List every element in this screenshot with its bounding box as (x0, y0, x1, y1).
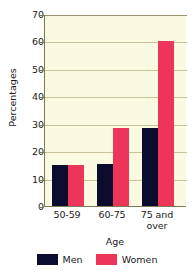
y-axis-tick-label: 20 (4, 147, 44, 156)
legend-label: Men (63, 255, 83, 265)
bar-men-1[interactable] (52, 165, 68, 206)
bar-women-3[interactable] (158, 41, 174, 206)
y-axis-tick-mark (40, 207, 44, 208)
plot-area (44, 15, 186, 207)
y-axis-tick-label: 10 (4, 175, 44, 184)
legend-swatch-women (96, 254, 117, 265)
legend-item-women[interactable]: Women (96, 254, 158, 265)
bar-women-2[interactable] (113, 128, 129, 206)
bar-men-2[interactable] (97, 164, 113, 207)
x-axis-label: Age (44, 236, 186, 247)
y-axis-tick-label: 30 (4, 120, 44, 129)
legend-swatch-men (37, 254, 58, 265)
legend-label: Women (122, 255, 158, 265)
bar-group (142, 14, 174, 206)
y-axis-tick-label: 70 (4, 10, 44, 19)
bar-men-3[interactable] (142, 128, 158, 206)
chart-legend: MenWomen (0, 254, 194, 265)
y-axis-tick-label: 50 (4, 65, 44, 74)
caption-fragment (0, 272, 194, 279)
x-axis-tick-label-line: over (127, 221, 187, 232)
y-axis-tick-label: 40 (4, 92, 44, 101)
x-axis-tick-label: 75 andover (127, 210, 187, 231)
y-axis-tick-label: 60 (4, 37, 44, 46)
bar-group (97, 14, 129, 206)
bar-group (52, 14, 84, 206)
bar-women-1[interactable] (68, 165, 84, 206)
legend-item-men[interactable]: Men (37, 254, 83, 265)
bar-chart-figure: Percentages 706050403020100 50-5960-7575… (0, 0, 194, 279)
x-axis-tick-label-line: 75 and (127, 210, 187, 221)
